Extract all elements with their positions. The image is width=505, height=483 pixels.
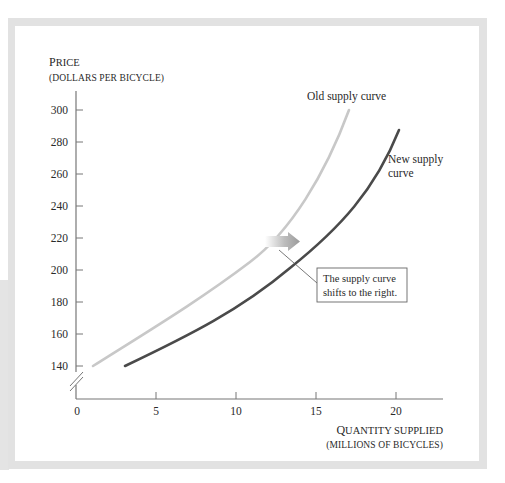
shift-right-arrow-icon: [265, 232, 300, 251]
y-axis-subtitle: (DOLLARS PER BICYCLE): [49, 73, 164, 84]
x-tick-labels: 0 5 10 15 20: [74, 405, 402, 417]
svg-text:240: 240: [51, 200, 69, 212]
svg-text:280: 280: [51, 136, 69, 148]
callout-leader-line: [279, 250, 317, 283]
new-supply-curve: [125, 130, 399, 366]
callout-box: The supply curve shifts to the right.: [317, 268, 407, 302]
y-axis-title: PRICE: [49, 55, 80, 69]
x-axis-title: QUANTITY SUPPLIED: [336, 423, 443, 437]
svg-text:5: 5: [153, 405, 159, 417]
svg-text:180: 180: [51, 296, 69, 308]
x-axis-subtitle: (MILLIONS OF BICYCLES): [326, 440, 443, 451]
old-supply-curve: [93, 110, 349, 366]
old-curve-label: Old supply curve: [307, 90, 386, 103]
callout-text-line1: The supply curve: [323, 273, 396, 284]
y-tick-labels: 300 280 260 240 220 200 180 160 140: [51, 104, 69, 372]
svg-text:220: 220: [51, 232, 69, 244]
svg-text:15: 15: [310, 405, 322, 417]
svg-text:200: 200: [51, 264, 69, 276]
svg-text:140: 140: [51, 360, 69, 372]
callout-text-line2: shifts to the right.: [323, 287, 397, 298]
svg-text:300: 300: [51, 104, 69, 116]
svg-text:0: 0: [74, 405, 80, 417]
supply-shift-chart: PRICE (DOLLARS PER BICYCLE) 300 280 260 …: [0, 0, 505, 483]
y-ticks: [76, 110, 83, 366]
svg-text:260: 260: [51, 168, 69, 180]
svg-text:160: 160: [51, 328, 69, 340]
x-ticks: [156, 392, 396, 399]
svg-text:10: 10: [230, 405, 242, 417]
new-curve-label-line1: New supply: [388, 153, 444, 166]
new-curve-label-line2: curve: [388, 167, 414, 179]
svg-text:20: 20: [390, 405, 402, 417]
